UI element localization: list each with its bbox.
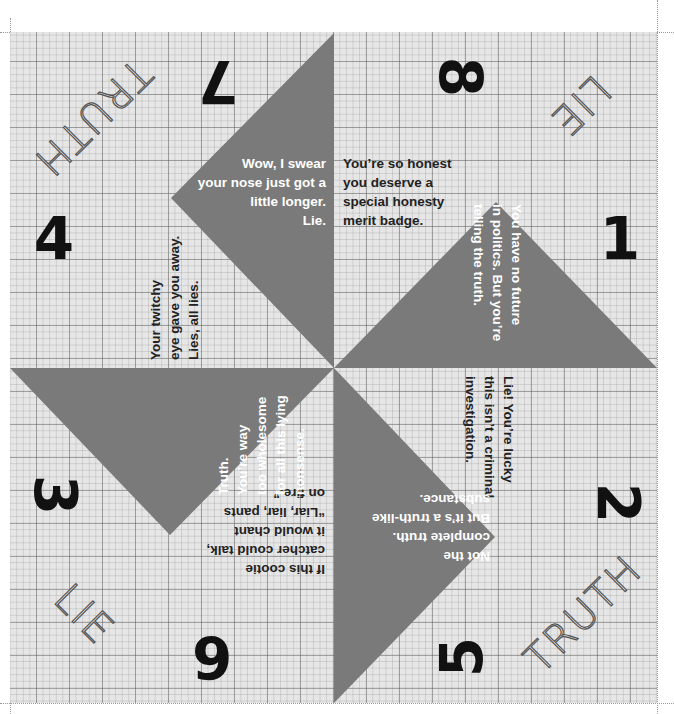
number-1[interactable]: 1: [590, 210, 650, 268]
number-3[interactable]: 3: [26, 465, 84, 525]
fortune-left-flap: Truth. You’re way too wholesome for all …: [214, 375, 309, 495]
fortune-right-flap: You have no future in politics. But you’…: [469, 204, 526, 380]
fortune-left-paper: Your twitchy eye gave you away. Lies, al…: [146, 210, 203, 360]
number-4[interactable]: 4: [24, 210, 84, 268]
number-6[interactable]: 6: [182, 628, 242, 686]
fortune-top-flap: Wow, I swear your nose just got a little…: [196, 154, 326, 230]
fortune-bottom-left-paper: If this cootie catcher could talk, it wo…: [175, 484, 325, 579]
number-8[interactable]: 8: [431, 47, 489, 107]
number-7[interactable]: 7: [188, 52, 248, 110]
number-2[interactable]: 2: [589, 473, 647, 533]
fortune-bottom-flap: Not the complete truth. But it’s a truth…: [340, 490, 490, 566]
number-5[interactable]: 5: [433, 627, 491, 687]
